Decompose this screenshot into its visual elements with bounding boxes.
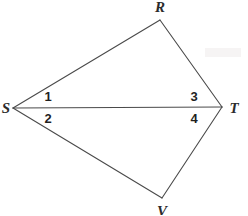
angle-label-2: 2 [44,112,51,125]
angle-label-1: 1 [44,90,51,103]
vertex-label-T: T [229,101,238,116]
segment-SR [13,20,160,108]
segment-ST-diagonal [13,107,222,108]
geometry-figure: R S T V 1 2 3 4 [0,0,248,215]
angle-label-4: 4 [190,112,197,125]
vertex-label-S: S [2,101,10,116]
figure-canvas [0,0,248,215]
angle-label-3: 3 [190,90,197,103]
vertex-label-R: R [155,0,165,15]
vertex-label-V: V [157,204,167,216]
segment-SV [13,108,162,198]
